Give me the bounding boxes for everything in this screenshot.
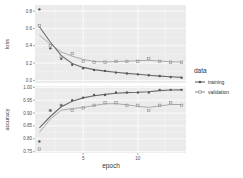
y-tick-label: 1.00 [23, 85, 32, 90]
point-training [148, 74, 150, 76]
point-training [38, 140, 40, 142]
training-history-chart: 0.00.20.40.60.8loss0.750.800.850.900.951… [0, 0, 243, 178]
point-training [126, 72, 128, 74]
point-training [93, 69, 95, 71]
y-tick-label: 0.8 [26, 9, 33, 14]
point-training [115, 91, 117, 93]
panel-accuracy: 0.750.800.850.900.951.00accuracy510 [4, 85, 186, 161]
point-training [104, 70, 106, 72]
point-training [169, 76, 171, 78]
x-tick-label: 10 [135, 156, 141, 161]
y-tick-label: 0.90 [23, 111, 32, 116]
point-training [60, 104, 62, 106]
point-training [126, 91, 128, 93]
x-tick-label: 5 [82, 156, 85, 161]
point-training [38, 8, 40, 10]
legend-label-validation: validation [208, 89, 229, 95]
point-training [104, 94, 106, 96]
legend-item-validation[interactable]: validation [195, 89, 229, 95]
square-marker-icon [199, 91, 201, 93]
point-training [82, 67, 84, 69]
x-axis-label: epoch [102, 162, 120, 170]
point-training [71, 99, 73, 101]
legend: data training validation [194, 67, 229, 95]
point-training [60, 58, 62, 60]
point-training [148, 91, 150, 93]
y-tick-label: 0.95 [23, 98, 32, 103]
point-training [159, 89, 161, 91]
legend-label-training: training [208, 79, 225, 85]
point-training [180, 77, 182, 79]
point-training [137, 73, 139, 75]
point-training [159, 75, 161, 77]
point-training [169, 89, 171, 91]
point-training [93, 94, 95, 96]
y-axis-label-loss: loss [4, 39, 10, 49]
y-tick-label: 0.0 [26, 78, 33, 83]
point-training [137, 91, 139, 93]
y-axis-label-accuracy: accuracy [4, 108, 10, 130]
y-tick-label: 0.6 [26, 26, 33, 31]
y-tick-label: 0.4 [26, 43, 33, 48]
point-training [49, 47, 51, 49]
y-tick-label: 0.80 [23, 136, 32, 141]
point-training [49, 109, 51, 111]
y-tick-label: 0.2 [26, 61, 33, 66]
y-tick-label: 0.75 [23, 149, 32, 154]
legend-item-training[interactable]: training [195, 79, 225, 85]
legend-title: data [194, 67, 207, 74]
point-training [115, 71, 117, 73]
panel-loss: 0.00.20.40.60.8loss [4, 5, 186, 83]
y-tick-label: 0.85 [23, 123, 32, 128]
point-training [71, 64, 73, 66]
point-training [82, 96, 84, 98]
point-training [180, 89, 182, 91]
filled-circle-marker-icon [199, 81, 202, 84]
